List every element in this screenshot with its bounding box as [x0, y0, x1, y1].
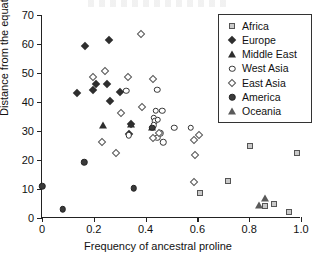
data-point-west-asia: [159, 107, 166, 114]
triangle-gray-icon: [225, 104, 239, 118]
marker-glyph: [228, 108, 236, 115]
legend-label: East Asia: [242, 78, 286, 89]
y-tick-label: 60: [22, 39, 34, 50]
data-point-america: [81, 159, 88, 166]
data-point-america: [149, 124, 156, 131]
data-point-west-asia: [160, 139, 167, 146]
marker-glyph: [228, 79, 236, 87]
data-point-middle-east: [127, 121, 135, 128]
square-open-gray-icon: [225, 19, 239, 33]
y-tick: [37, 131, 42, 132]
x-tick: [94, 217, 95, 222]
y-tick: [37, 160, 42, 161]
y-axis-label: Distance from the equator: [0, 0, 10, 116]
data-point-oceania: [261, 195, 269, 202]
diamond-open-icon: [225, 76, 239, 90]
y-tick-label: 70: [22, 10, 34, 21]
x-axis-label: Frequency of ancestral proline: [0, 240, 316, 252]
x-tick: [249, 217, 250, 222]
data-point-east-asia: [137, 30, 145, 38]
scatter-chart: Distance from the equator Frequency of a…: [0, 0, 316, 260]
legend-label: West Asia: [242, 63, 289, 74]
data-point-middle-east: [99, 122, 107, 129]
data-point-west-asia: [171, 124, 178, 131]
data-point-europe: [73, 89, 81, 97]
y-tick-label: 0: [28, 213, 34, 224]
data-point-america: [59, 206, 66, 213]
data-point-africa: [286, 209, 292, 215]
data-point-west-asia: [126, 132, 133, 139]
legend-item-oceania[interactable]: Oceania: [225, 104, 307, 118]
legend-label: Europe: [242, 35, 276, 46]
marker-glyph: [228, 51, 236, 58]
data-point-europe: [106, 97, 114, 105]
data-point-west-asia: [154, 86, 161, 93]
data-point-africa: [262, 203, 268, 209]
data-point-africa: [294, 150, 300, 156]
data-point-west-asia: [123, 88, 130, 95]
y-tick-label: 10: [22, 184, 34, 195]
legend-item-middle-east[interactable]: Middle East: [225, 47, 307, 61]
x-tick-label: 0.2: [86, 224, 101, 235]
y-tick: [37, 44, 42, 45]
data-point-europe: [103, 80, 111, 88]
data-point-east-asia: [189, 178, 197, 186]
x-tick: [301, 217, 302, 222]
y-tick: [37, 73, 42, 74]
data-point-west-asia: [188, 125, 195, 132]
x-tick: [197, 217, 198, 222]
data-point-europe: [105, 36, 113, 44]
triangle-filled-icon: [225, 47, 239, 61]
legend-label: America: [242, 92, 281, 103]
x-tick-label: 0.4: [138, 224, 153, 235]
y-tick-label: 50: [22, 68, 34, 79]
x-tick-label: 0.6: [190, 224, 205, 235]
x-tick: [146, 217, 147, 222]
legend-label: Middle East: [242, 49, 297, 60]
data-point-east-asia: [101, 67, 109, 75]
x-tick: [42, 217, 43, 222]
legend-item-west-asia[interactable]: West Asia: [225, 62, 307, 76]
legend-label: Africa: [242, 21, 269, 32]
data-point-east-asia: [112, 149, 120, 157]
circle-filled-icon: [225, 90, 239, 104]
y-tick: [37, 15, 42, 16]
data-point-america: [131, 185, 138, 192]
marker-glyph: [229, 94, 236, 101]
data-point-america: [39, 183, 46, 190]
diamond-filled-icon: [225, 33, 239, 47]
data-point-africa: [225, 178, 231, 184]
data-point-east-asia: [137, 102, 145, 110]
data-point-east-asia: [191, 151, 199, 159]
data-point-africa: [271, 201, 277, 207]
legend-item-america[interactable]: America: [225, 90, 307, 104]
x-tick-label: 1.0: [293, 224, 308, 235]
data-point-east-asia: [98, 138, 106, 146]
data-point-east-asia: [149, 75, 157, 83]
marker-glyph: [228, 36, 236, 44]
x-tick-label: 0: [39, 224, 45, 235]
legend: AfricaEuropeMiddle EastWest AsiaEast Asi…: [218, 14, 312, 123]
legend-item-east-asia[interactable]: East Asia: [225, 76, 307, 90]
marker-glyph: [229, 23, 235, 29]
data-point-oceania: [255, 201, 263, 208]
y-tick-label: 30: [22, 126, 34, 137]
data-point-europe: [80, 42, 88, 50]
data-point-east-asia: [124, 73, 132, 81]
y-tick: [37, 102, 42, 103]
y-tick-label: 40: [22, 97, 34, 108]
clipped-title-strip: [88, 0, 228, 7]
marker-glyph: [229, 65, 236, 72]
y-tick-label: 20: [22, 155, 34, 166]
data-point-africa: [197, 190, 203, 196]
data-point-africa: [247, 143, 253, 149]
legend-item-africa[interactable]: Africa: [225, 19, 307, 33]
x-tick-label: 0.8: [242, 224, 257, 235]
legend-item-europe[interactable]: Europe: [225, 33, 307, 47]
data-point-east-asia: [117, 109, 125, 117]
circle-open-icon: [225, 62, 239, 76]
legend-label: Oceania: [242, 106, 281, 117]
